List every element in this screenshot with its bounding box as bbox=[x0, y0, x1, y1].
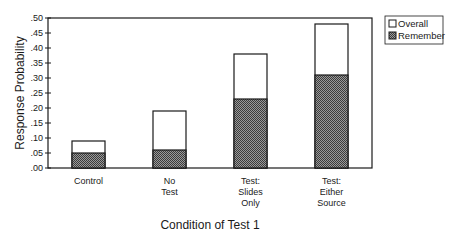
legend-swatch-remember-icon bbox=[389, 32, 396, 39]
bar-remember bbox=[234, 99, 267, 168]
y-tick-label: .15 bbox=[30, 118, 43, 128]
bar-group bbox=[234, 54, 267, 168]
bars bbox=[72, 24, 348, 168]
x-category-label: Test bbox=[161, 187, 178, 197]
legend-label-overall: Overall bbox=[398, 18, 428, 29]
x-category-label: Slides bbox=[238, 187, 263, 197]
x-axis-categories: ControlNoTestTest:SlidesOnlyTest:EitherS… bbox=[74, 176, 346, 208]
bar-remember bbox=[153, 150, 186, 168]
y-tick-label: .10 bbox=[30, 133, 43, 143]
x-category-label: Either bbox=[320, 187, 344, 197]
x-category-label: Only bbox=[241, 198, 260, 208]
y-tick-label: .25 bbox=[30, 88, 43, 98]
x-category-label: Test: bbox=[241, 176, 260, 186]
x-category-label: No bbox=[164, 176, 176, 186]
y-tick-label: .45 bbox=[30, 28, 43, 38]
bar-remember bbox=[72, 153, 105, 168]
x-category-label: Control bbox=[74, 176, 103, 186]
x-category-label: Source bbox=[317, 198, 346, 208]
legend-swatch-overall-icon bbox=[389, 20, 396, 27]
y-axis-title: Response Probability bbox=[13, 36, 27, 149]
y-tick-label: .35 bbox=[30, 58, 43, 68]
y-tick-label: .50 bbox=[30, 13, 43, 23]
y-tick-label: .00 bbox=[30, 163, 43, 173]
bar-group bbox=[153, 111, 186, 168]
y-tick-label: .30 bbox=[30, 73, 43, 83]
bar-remember bbox=[315, 75, 348, 168]
y-tick-label: .05 bbox=[30, 148, 43, 158]
bar-group bbox=[72, 141, 105, 168]
legend: Overall Remember bbox=[385, 16, 445, 44]
x-axis-title: Condition of Test 1 bbox=[160, 218, 260, 232]
x-category-label: Test: bbox=[322, 176, 341, 186]
y-tick-label: .20 bbox=[30, 103, 43, 113]
bar-group bbox=[315, 24, 348, 168]
bar-chart: .00.05.10.15.20.25.30.35.40.45.50 Contro… bbox=[0, 0, 455, 237]
y-tick-label: .40 bbox=[30, 43, 43, 53]
legend-label-remember: Remember bbox=[398, 30, 445, 41]
